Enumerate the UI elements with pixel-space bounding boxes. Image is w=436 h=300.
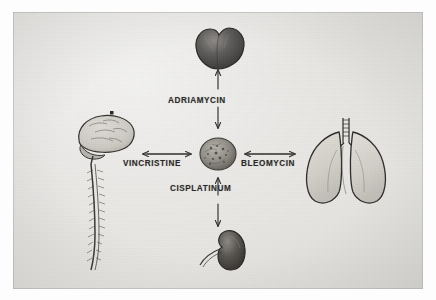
tumor-graphic (200, 138, 236, 170)
screenshot-root: ADRIAMYCIN VINCRISTINE BLEOMYCIN CISPLAT… (0, 0, 436, 300)
edge-label-cisplatinum: CISPLATINUM (170, 184, 231, 193)
heart-graphic (196, 28, 244, 69)
edge-label-adriamycin: ADRIAMYCIN (168, 96, 226, 105)
lungs-graphic (307, 118, 386, 203)
kidney-graphic (200, 231, 245, 270)
photograph-of-diagram: ADRIAMYCIN VINCRISTINE BLEOMYCIN CISPLAT… (13, 12, 423, 289)
edge-label-vincristine: VINCRISTINE (123, 159, 181, 168)
edge-label-bleomycin: BLEOMYCIN (241, 159, 295, 168)
brain-graphic (79, 111, 134, 270)
diagram-canvas (13, 12, 423, 289)
